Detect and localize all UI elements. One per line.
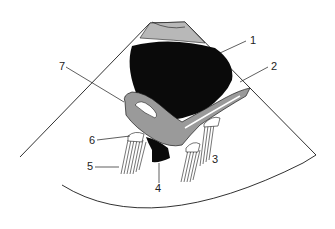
label-1: 1	[250, 34, 256, 46]
left-muscle	[121, 140, 146, 174]
label-4: 4	[155, 182, 161, 194]
label-2: 2	[271, 60, 277, 72]
right-bone	[186, 143, 200, 152]
abdominal-wall	[140, 22, 205, 43]
ultrasound-diagram: 1 2 3 4 5 6 7	[0, 0, 335, 229]
label-3: 3	[212, 153, 218, 165]
label-5: 5	[87, 160, 93, 172]
label-6: 6	[89, 134, 95, 146]
label-7: 7	[59, 60, 65, 72]
left-bone	[128, 132, 144, 142]
